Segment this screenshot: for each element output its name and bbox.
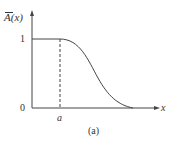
origin-label: 0 [20, 103, 25, 113]
x-arrow-icon [154, 106, 160, 110]
curve [32, 39, 133, 108]
xtick-a: a [57, 113, 62, 123]
curve-diagram [0, 0, 173, 146]
caption: (a) [88, 126, 99, 136]
y-axis-label: A(x) [4, 12, 23, 23]
overline [5, 12, 13, 13]
y-arrow-icon [30, 10, 34, 16]
ytick-one: 1 [20, 34, 25, 44]
x-axis-label: x [161, 103, 165, 113]
